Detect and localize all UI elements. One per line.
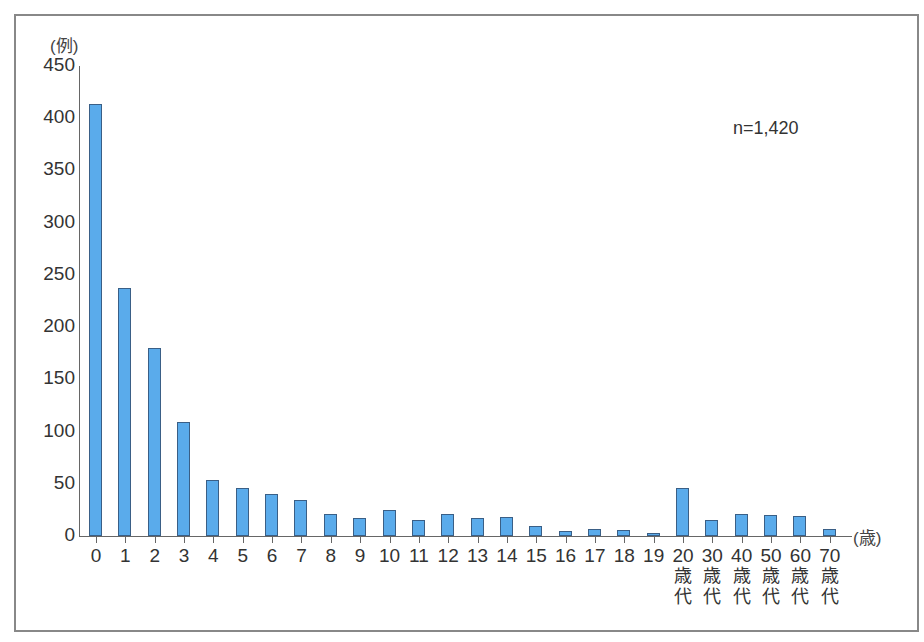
x-tick — [184, 537, 185, 543]
x-tick — [155, 537, 156, 543]
x-tick — [478, 537, 479, 543]
x-tick-label-main: 20 — [672, 545, 693, 566]
x-tick-label: 19 — [639, 545, 669, 566]
x-tick-label-suffix: 代 — [785, 587, 815, 608]
x-tick-label-main: 40 — [731, 545, 752, 566]
y-tick-label: 50 — [15, 473, 75, 493]
x-tick-label-suffix: 代 — [668, 587, 698, 608]
bar — [353, 518, 366, 536]
x-tick-label-suffix: 歳 — [697, 566, 727, 587]
y-tick-label: 250 — [15, 264, 75, 284]
x-axis-unit-label: (歳) — [853, 524, 881, 549]
x-tick — [536, 537, 537, 543]
x-tick — [331, 537, 332, 543]
x-tick-label-main: 30 — [702, 545, 723, 566]
bar — [383, 510, 396, 536]
x-tick-label-main: 11 — [409, 545, 429, 566]
bar — [588, 529, 601, 536]
x-tick-label: 60歳代 — [785, 545, 815, 608]
x-tick-label-main: 1 — [120, 545, 131, 566]
x-tick-label-main: 15 — [526, 545, 547, 566]
x-tick — [125, 537, 126, 543]
x-tick-label-main: 8 — [326, 545, 337, 566]
bar — [500, 517, 513, 536]
x-tick-label-suffix: 代 — [727, 587, 757, 608]
x-tick-label: 4 — [198, 545, 228, 566]
x-tick-label-main: 19 — [643, 545, 664, 566]
x-tick-label-suffix: 歳 — [727, 566, 757, 587]
x-tick-label-main: 70 — [819, 545, 840, 566]
x-tick-label: 5 — [228, 545, 258, 566]
x-tick-label-main: 9 — [355, 545, 366, 566]
x-tick-label-suffix: 歳 — [815, 566, 845, 587]
x-tick — [595, 537, 596, 543]
x-tick-label-suffix: 歳 — [785, 566, 815, 587]
x-tick-label: 50歳代 — [756, 545, 786, 608]
x-tick-label: 70歳代 — [815, 545, 845, 608]
bar — [294, 500, 307, 536]
bar — [764, 515, 777, 536]
x-tick — [448, 537, 449, 543]
bar — [793, 516, 806, 536]
x-axis-line — [79, 536, 852, 537]
x-tick-label: 14 — [492, 545, 522, 566]
x-tick-label: 11 — [404, 545, 434, 566]
x-tick-label: 8 — [316, 545, 346, 566]
x-tick — [419, 537, 420, 543]
x-tick — [800, 537, 801, 543]
x-tick-label: 17 — [580, 545, 610, 566]
x-tick-label: 12 — [433, 545, 463, 566]
x-tick-label: 13 — [463, 545, 493, 566]
bar — [529, 526, 542, 536]
bar — [735, 514, 748, 536]
bar — [823, 529, 836, 536]
y-tick-label: 300 — [15, 212, 75, 232]
x-tick-label: 40歳代 — [727, 545, 757, 608]
x-tick-label: 7 — [286, 545, 316, 566]
x-tick — [712, 537, 713, 543]
x-tick-label: 15 — [521, 545, 551, 566]
bar — [617, 530, 630, 536]
x-tick — [360, 537, 361, 543]
x-tick-label-main: 16 — [555, 545, 576, 566]
x-tick-label-suffix: 歳 — [756, 566, 786, 587]
bar — [647, 533, 660, 536]
y-tick-label: 0 — [15, 525, 75, 545]
x-tick-label-main: 10 — [379, 545, 400, 566]
x-tick — [213, 537, 214, 543]
x-tick-label: 16 — [551, 545, 581, 566]
bar — [559, 531, 572, 536]
x-tick — [507, 537, 508, 543]
x-tick-label-suffix: 代 — [815, 587, 845, 608]
y-tick-label: 150 — [15, 368, 75, 388]
x-tick-label-main: 60 — [790, 545, 811, 566]
x-tick-label-main: 5 — [237, 545, 248, 566]
bar — [236, 488, 249, 536]
x-tick-label: 20歳代 — [668, 545, 698, 608]
bar — [471, 518, 484, 536]
y-tick-label: 450 — [15, 55, 75, 75]
x-tick-label: 0 — [81, 545, 111, 566]
y-tick-label: 100 — [15, 421, 75, 441]
x-tick-label-main: 18 — [614, 545, 635, 566]
x-tick — [683, 537, 684, 543]
x-tick-label: 6 — [257, 545, 287, 566]
bar — [705, 520, 718, 536]
chart-frame — [14, 14, 919, 632]
x-tick-label: 18 — [609, 545, 639, 566]
x-tick — [301, 537, 302, 543]
y-tick-label: 350 — [15, 159, 75, 179]
x-tick — [243, 537, 244, 543]
x-tick — [390, 537, 391, 543]
x-tick-label-suffix: 代 — [756, 587, 786, 608]
x-tick — [96, 537, 97, 543]
x-tick-label-main: 0 — [91, 545, 102, 566]
x-tick-label-main: 50 — [760, 545, 781, 566]
x-tick-label-main: 6 — [267, 545, 278, 566]
x-tick-label: 2 — [140, 545, 170, 566]
bar — [676, 488, 689, 536]
bar — [148, 348, 161, 536]
x-tick — [742, 537, 743, 543]
x-tick-label-main: 3 — [179, 545, 190, 566]
x-tick — [566, 537, 567, 543]
